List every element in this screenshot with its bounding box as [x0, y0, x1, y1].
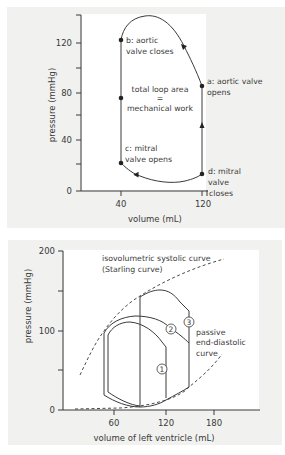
- label-c: c: mitral: [125, 144, 157, 153]
- label-c: valve opens: [125, 155, 172, 164]
- y-axis-label: pressure (mmHg): [47, 68, 57, 142]
- y-tick-label: 120: [56, 38, 72, 48]
- label-d: valve: [208, 178, 229, 187]
- y-tick-label: 100: [39, 326, 55, 336]
- loop-3-label: 3: [184, 317, 194, 327]
- y-ticks: [58, 251, 63, 370]
- point-mid: [119, 96, 124, 101]
- passive-label: passive: [196, 328, 226, 337]
- x-tick-label: 120: [158, 418, 174, 428]
- passive-label: curve: [196, 349, 218, 358]
- loop-2-label: 2: [166, 324, 176, 334]
- x-tick-label: 120: [195, 199, 211, 209]
- x-ticks: [114, 410, 214, 415]
- x-tick-label: 180: [206, 418, 222, 428]
- label-d: closes: [209, 189, 233, 198]
- y-axis-label: pressure (mmHg): [23, 269, 33, 343]
- starling-chart: 200 100 0 60 120 180 volume of left vent…: [23, 246, 260, 443]
- y-ticks: [76, 43, 81, 164]
- label-a: a: aortic valve: [207, 77, 263, 86]
- point-d: [200, 172, 205, 177]
- svg-text:1: 1: [160, 365, 165, 374]
- y-tick-label: 0: [67, 186, 72, 196]
- y-tick-label: 80: [61, 88, 72, 98]
- point-c: [119, 161, 124, 166]
- label-loop-area: mechanical work: [127, 104, 194, 113]
- point-b: [119, 38, 124, 43]
- svg-text:3: 3: [187, 318, 192, 327]
- starling-label: isovolumetric systolic curve: [102, 254, 211, 263]
- svg-text:2: 2: [169, 325, 174, 334]
- x-tick-label: 40: [116, 199, 127, 209]
- label-b: b: aortic: [126, 36, 158, 45]
- label-d: d: mitral: [208, 167, 241, 176]
- label-loop-area: =: [157, 94, 164, 103]
- y-tick-label: 0: [50, 405, 55, 415]
- loop-1-label: 1: [157, 364, 167, 374]
- label-loop-area: total loop area: [132, 85, 189, 94]
- label-b: valve closes: [126, 47, 174, 56]
- charts-canvas: 120 80 40 0 40 120 volume (mL) pressure …: [0, 0, 285, 455]
- starling-label: (Starling curve): [102, 265, 163, 274]
- passive-label: end-diastolic: [196, 338, 246, 347]
- y-tick-label: 40: [61, 135, 72, 145]
- x-axis-label: volume (mL): [128, 214, 182, 224]
- point-a: [200, 84, 205, 89]
- x-axis-label: volume of left ventricle (mL): [93, 433, 214, 443]
- label-a: opens: [207, 88, 231, 97]
- x-tick-label: 60: [109, 418, 120, 428]
- plot-area: [64, 250, 259, 410]
- x-ticks: [121, 191, 202, 196]
- pv-loop-chart: 120 80 40 0 40 120 volume (mL) pressure …: [47, 14, 263, 224]
- y-tick-label: 200: [39, 246, 55, 256]
